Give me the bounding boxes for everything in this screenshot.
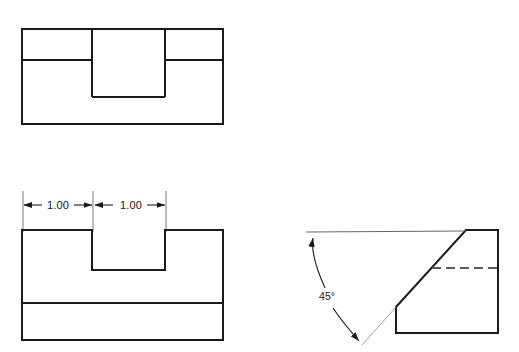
angle-leader-lower	[333, 308, 359, 341]
angle-dimension-label: 45°	[319, 290, 335, 302]
right-side-view	[396, 230, 498, 333]
angle-leader-upper	[313, 238, 325, 288]
drawing-sheet: 1.00 1.00	[0, 0, 519, 352]
front-view	[22, 230, 223, 340]
dimension-2-label: 1.00	[120, 199, 142, 211]
top-view-outline	[22, 29, 223, 124]
dimension-1-label: 1.00	[47, 199, 69, 211]
angle-dimension-45: 45°	[306, 231, 466, 345]
engineering-drawing-canvas: 1.00 1.00	[0, 0, 519, 352]
dimension-1-left: 1.00	[24, 199, 92, 211]
angle-chamfer-extension-line	[362, 307, 396, 345]
dimension-group: 1.00 1.00	[23, 191, 166, 232]
angle-reference-line	[306, 231, 466, 232]
dimension-2-right: 1.00	[95, 199, 165, 211]
front-view-outline	[22, 230, 223, 340]
top-view	[22, 29, 223, 124]
right-side-view-outline	[396, 230, 498, 333]
